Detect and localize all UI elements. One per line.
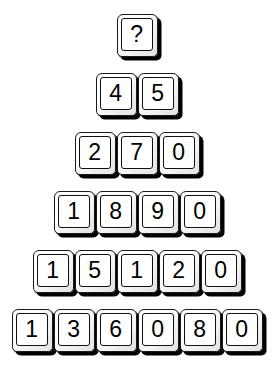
key-face: 5 xyxy=(79,254,111,287)
pyramid-key-stack: ? 4 5 2 7 xyxy=(0,14,275,368)
key-face: 1 xyxy=(58,195,90,228)
key-label: 1 xyxy=(130,258,143,281)
key-label: 1 xyxy=(67,199,80,222)
key-label: 8 xyxy=(193,317,206,340)
number-pyramid-puzzle: ? 4 5 2 7 xyxy=(0,0,275,386)
key-r4-c3[interactable]: 9 xyxy=(138,191,179,234)
key-label: 0 xyxy=(235,317,248,340)
key-face: 0 xyxy=(226,313,258,346)
key-face: 0 xyxy=(184,195,216,228)
key-r5-c5[interactable]: 0 xyxy=(201,250,242,293)
key-face: 0 xyxy=(142,313,174,346)
key-face: 0 xyxy=(205,254,237,287)
key-face: 5 xyxy=(142,77,174,110)
key-r5-c3[interactable]: 1 xyxy=(117,250,158,293)
key-face: 6 xyxy=(100,313,132,346)
key-face: 2 xyxy=(79,136,111,169)
key-label: 4 xyxy=(109,81,122,104)
key-r2-c1[interactable]: 4 xyxy=(96,73,137,116)
key-face: 8 xyxy=(184,313,216,346)
key-r5-c2[interactable]: 5 xyxy=(75,250,116,293)
key-face: 1 xyxy=(121,254,153,287)
key-face: 8 xyxy=(100,195,132,228)
key-r6-c6[interactable]: 0 xyxy=(222,309,263,352)
key-label: ? xyxy=(130,22,143,45)
key-label: 7 xyxy=(130,140,143,163)
key-label: 8 xyxy=(109,199,122,222)
key-r5-c4[interactable]: 2 xyxy=(159,250,200,293)
key-label: 5 xyxy=(151,81,164,104)
key-r3-c2[interactable]: 7 xyxy=(117,132,158,175)
key-label: 2 xyxy=(88,140,101,163)
key-r2-c2[interactable]: 5 xyxy=(138,73,179,116)
key-label: 1 xyxy=(25,317,38,340)
key-face: 3 xyxy=(58,313,90,346)
key-label: 5 xyxy=(88,258,101,281)
key-r6-c3[interactable]: 6 xyxy=(96,309,137,352)
key-label: 2 xyxy=(172,258,185,281)
pyramid-row-5: 1 5 1 2 0 xyxy=(33,250,243,309)
key-face: 9 xyxy=(142,195,174,228)
key-label: 3 xyxy=(67,317,80,340)
pyramid-row-4: 1 8 9 0 xyxy=(54,191,222,250)
key-label: 1 xyxy=(46,258,59,281)
key-label: 0 xyxy=(151,317,164,340)
key-label: 0 xyxy=(172,140,185,163)
key-face: 0 xyxy=(163,136,195,169)
key-face: ? xyxy=(121,18,153,51)
key-r4-c1[interactable]: 1 xyxy=(54,191,95,234)
key-r3-c3[interactable]: 0 xyxy=(159,132,200,175)
key-r5-c1[interactable]: 1 xyxy=(33,250,74,293)
key-r1-c1[interactable]: ? xyxy=(117,14,158,57)
key-label: 6 xyxy=(109,317,122,340)
key-face: 1 xyxy=(16,313,48,346)
key-label: 9 xyxy=(151,199,164,222)
key-label: 0 xyxy=(193,199,206,222)
key-r6-c2[interactable]: 3 xyxy=(54,309,95,352)
key-label: 0 xyxy=(214,258,227,281)
key-r4-c2[interactable]: 8 xyxy=(96,191,137,234)
key-face: 2 xyxy=(163,254,195,287)
pyramid-row-6: 1 3 6 0 8 xyxy=(12,309,264,368)
key-r4-c4[interactable]: 0 xyxy=(180,191,221,234)
pyramid-row-3: 2 7 0 xyxy=(75,132,201,191)
key-face: 4 xyxy=(100,77,132,110)
key-r6-c1[interactable]: 1 xyxy=(12,309,53,352)
key-r6-c5[interactable]: 8 xyxy=(180,309,221,352)
pyramid-row-1: ? xyxy=(117,14,159,73)
key-r6-c4[interactable]: 0 xyxy=(138,309,179,352)
key-face: 7 xyxy=(121,136,153,169)
key-face: 1 xyxy=(37,254,69,287)
key-r3-c1[interactable]: 2 xyxy=(75,132,116,175)
pyramid-row-2: 4 5 xyxy=(96,73,180,132)
